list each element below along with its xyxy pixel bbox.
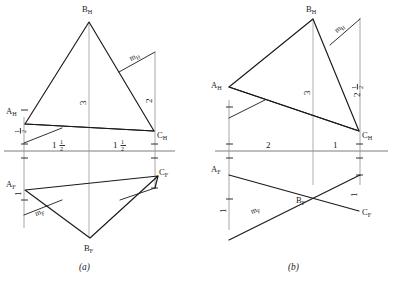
leader-b-top-left	[229, 100, 265, 118]
front-view-line-b-ac	[229, 175, 359, 211]
vertex-label-bf-b: BF	[296, 195, 306, 206]
dim-frac-a-left-upper: 1 2	[13, 128, 27, 134]
dim-label-b-front-left: 1	[218, 209, 228, 214]
dim-label-center-b: 3	[302, 90, 312, 95]
panel-b: BH AH CH mH 3 2 1 2 2 1 AF BF CF mF 1 1 …	[211, 4, 388, 273]
dim-label-right-a: 2	[144, 99, 154, 104]
top-view-base-a	[25, 124, 154, 131]
median-label-mh-a: mH	[128, 50, 141, 64]
ground-dim-right-a: 1 1 2	[113, 139, 126, 152]
engineering-drawing-canvas: BH AH CH mH 3 2 1 1 2 1 1 2 1	[0, 0, 393, 281]
dim-right-b-whole: 2	[352, 93, 362, 98]
frac-num: 1	[13, 130, 20, 133]
leader-a-front-right	[120, 188, 155, 200]
vertex-label-ah-b: AH	[211, 80, 222, 91]
vertex-label-bh-a: BH	[82, 4, 93, 15]
dim-label-b-front-right: 1	[349, 193, 359, 198]
vertex-label-af-b: AF	[211, 164, 221, 175]
ground-dim-left-num-a: 1	[60, 139, 63, 145]
ground-dim-left-a: 1 1 2	[52, 139, 65, 152]
vertex-label-ch-a: CH	[157, 130, 168, 141]
dim-label-right-b: 2 1 2	[350, 84, 364, 97]
vertex-label-ch-b: CH	[362, 130, 373, 141]
caption-b: (b)	[288, 262, 299, 273]
ground-dim-right-den-a: 2	[121, 146, 124, 152]
median-leader-b-top	[330, 19, 360, 45]
vertex-label-bh-b: BH	[306, 4, 317, 15]
top-view-base-b	[229, 87, 359, 131]
caption-a: (a)	[79, 262, 90, 273]
dim-right-b-num: 1	[350, 86, 357, 89]
dim-right-b-den: 2	[357, 86, 364, 89]
median-label-mh-b: mH	[333, 21, 347, 35]
top-view-triangle-a	[25, 22, 154, 131]
ground-dim-right-whole-a: 1	[113, 140, 118, 150]
dim-label-center-a: 3	[78, 100, 88, 105]
frac-den: 2	[20, 130, 27, 133]
dim-label-a-front-left: 1	[13, 192, 23, 197]
top-view-triangle-b	[229, 19, 359, 131]
ground-dim-right-b: 1	[333, 140, 338, 150]
median-label-mf-a: mF	[34, 206, 46, 218]
vertex-label-bf-a: BF	[84, 243, 94, 254]
ground-dim-left-b: 2	[266, 140, 271, 150]
panel-a: BH AH CH mH 3 2 1 1 2 1 1 2 1	[4, 4, 175, 273]
vertex-label-af-a: AF	[6, 179, 16, 190]
ground-dim-left-whole-a: 1	[52, 140, 57, 150]
figure-root: BH AH CH mH 3 2 1 1 2 1 1 2 1	[0, 0, 393, 281]
vertex-label-ah-a: AH	[6, 106, 17, 117]
ground-dim-left-den-a: 2	[60, 146, 63, 152]
vertex-label-cf-a: CF	[159, 167, 169, 178]
ground-dim-right-num-a: 1	[121, 139, 124, 145]
median-label-mf-b: mF	[249, 204, 261, 217]
vertex-label-cf-b: CF	[362, 207, 372, 218]
